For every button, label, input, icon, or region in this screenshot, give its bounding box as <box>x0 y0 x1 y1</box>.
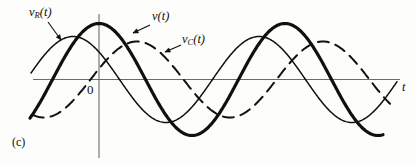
leader-vr-arrowhead <box>56 35 61 40</box>
figure-caption: (c) <box>12 136 25 148</box>
vr-arg: (t) <box>40 5 52 19</box>
x-axis-label: t <box>402 81 405 94</box>
curve-label-v: v(t) <box>152 10 169 23</box>
origin-label: 0 <box>87 83 94 96</box>
leader-v-arrowhead <box>133 29 139 33</box>
waveform-plot <box>0 0 416 165</box>
figure-container: vR(t) v(t) vC(t) 0 t (c) <box>0 0 416 165</box>
leader-vc-arrowhead <box>165 48 171 52</box>
v-arg: (t) <box>158 9 170 23</box>
curve-label-vr: vR(t) <box>29 6 52 20</box>
vc-arg: (t) <box>193 32 205 46</box>
curve-label-vc: vC(t) <box>182 33 205 47</box>
